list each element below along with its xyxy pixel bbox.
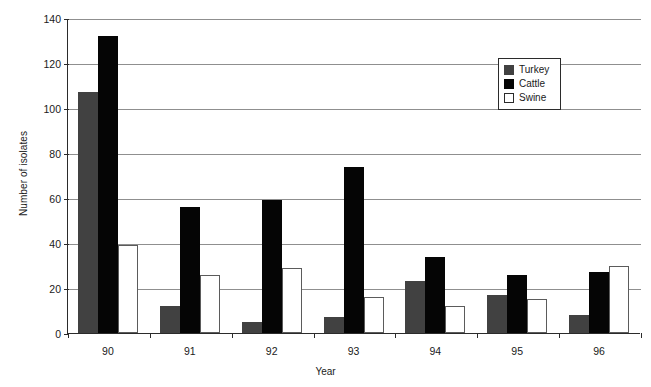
x-tick-mark <box>314 333 315 338</box>
bar-group <box>150 18 232 333</box>
x-tick-mark <box>68 333 69 338</box>
x-axis-title: Year <box>0 366 651 377</box>
legend-item-swine: Swine <box>504 91 555 104</box>
x-tick-label-96: 96 <box>558 345 640 357</box>
bar-swine-91 <box>200 275 220 334</box>
bar-cattle-94 <box>425 257 445 334</box>
x-tick-label-90: 90 <box>67 345 149 357</box>
bar-turkey-90 <box>78 92 98 333</box>
bar-swine-92 <box>282 268 302 333</box>
y-tick-label: 80 <box>49 148 61 160</box>
legend-label-swine: Swine <box>519 92 546 103</box>
bar-group <box>68 18 150 333</box>
y-tick-label: 100 <box>43 103 61 115</box>
bar-swine-94 <box>445 306 465 333</box>
bar-group <box>395 18 477 333</box>
bar-group <box>559 18 641 333</box>
chart-legend: Turkey Cattle Swine <box>498 58 561 110</box>
y-tick-label: 140 <box>43 13 61 25</box>
bar-turkey-96 <box>569 315 589 333</box>
x-tick-mark <box>395 333 396 338</box>
x-tick-label-95: 95 <box>476 345 558 357</box>
legend-item-cattle: Cattle <box>504 77 555 90</box>
x-tick-mark <box>150 333 151 338</box>
bar-cattle-90 <box>98 36 118 333</box>
y-tick-label: 0 <box>55 328 61 340</box>
bar-group <box>314 18 396 333</box>
bar-swine-93 <box>364 297 384 333</box>
legend-swatch-turkey-icon <box>504 65 514 75</box>
legend-swatch-swine-icon <box>504 93 514 103</box>
y-axis-title: Number of isolates <box>18 104 29 244</box>
y-tick-label: 120 <box>43 58 61 70</box>
y-tick-label: 20 <box>49 283 61 295</box>
x-tick-label-93: 93 <box>313 345 395 357</box>
legend-item-turkey: Turkey <box>504 63 555 76</box>
legend-swatch-cattle-icon <box>504 79 514 89</box>
bar-swine-90 <box>118 245 138 333</box>
y-tick-label: 60 <box>49 193 61 205</box>
bar-cattle-91 <box>180 207 200 333</box>
bar-swine-95 <box>527 299 547 333</box>
x-tick-mark <box>477 333 478 338</box>
bar-chart: Number of isolates 020406080100120140 90… <box>0 0 651 387</box>
x-tick-label-91: 91 <box>149 345 231 357</box>
x-tick-label-94: 94 <box>394 345 476 357</box>
bar-group <box>232 18 314 333</box>
bar-turkey-91 <box>160 306 180 333</box>
legend-label-turkey: Turkey <box>519 64 549 75</box>
y-tick-label: 40 <box>49 238 61 250</box>
x-tick-mark <box>559 333 560 338</box>
x-tick-mark <box>232 333 233 338</box>
legend-label-cattle: Cattle <box>519 78 545 89</box>
x-tick-mark <box>641 333 642 338</box>
bar-turkey-94 <box>405 281 425 333</box>
bar-turkey-93 <box>324 317 344 333</box>
bar-swine-96 <box>609 266 629 334</box>
bar-cattle-92 <box>262 200 282 333</box>
x-tick-label-92: 92 <box>231 345 313 357</box>
bar-cattle-93 <box>344 167 364 334</box>
bar-turkey-92 <box>242 322 262 333</box>
bar-cattle-96 <box>589 272 609 333</box>
bar-cattle-95 <box>507 275 527 334</box>
bar-turkey-95 <box>487 295 507 333</box>
